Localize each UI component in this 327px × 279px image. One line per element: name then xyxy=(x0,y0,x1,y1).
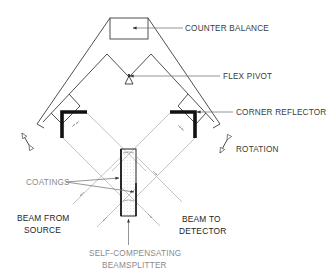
label-beam-from-source-1: BEAM FROM xyxy=(17,213,70,223)
label-beamsplitter-1: SELF-COMPENSATING xyxy=(89,249,181,258)
label-beam-to-detector-1: BEAM TO xyxy=(182,214,221,224)
label-beam-from-source-2: SOURCE xyxy=(24,225,61,235)
flex-pivot xyxy=(125,74,133,84)
coatings-leader-1 xyxy=(66,178,119,182)
interferometer-diagram: COUNTER BALANCE FLEX PIVOT CORNER REFLEC… xyxy=(0,0,327,279)
label-corner-reflector: CORNER REFLECTOR xyxy=(236,108,326,117)
rotation-arrow-right-icon xyxy=(220,140,227,153)
rotation-arrow-left-icon xyxy=(22,133,29,145)
pivot-triangle-icon xyxy=(125,76,133,84)
label-beamsplitter-2: BEAMSPLITTER xyxy=(102,261,167,270)
label-beam-to-detector-2: DETECTOR xyxy=(179,226,227,236)
label-rotation: ROTATION xyxy=(236,145,279,154)
beamsplitter xyxy=(121,149,136,216)
label-coatings: COATINGS xyxy=(26,178,70,187)
counter-balance-block xyxy=(110,18,148,39)
corner-reflector-right xyxy=(170,112,195,138)
label-counter-balance: COUNTER BALANCE xyxy=(185,24,269,33)
label-flex-pivot: FLEX PIVOT xyxy=(223,72,272,81)
corner-reflector-left xyxy=(62,112,87,138)
